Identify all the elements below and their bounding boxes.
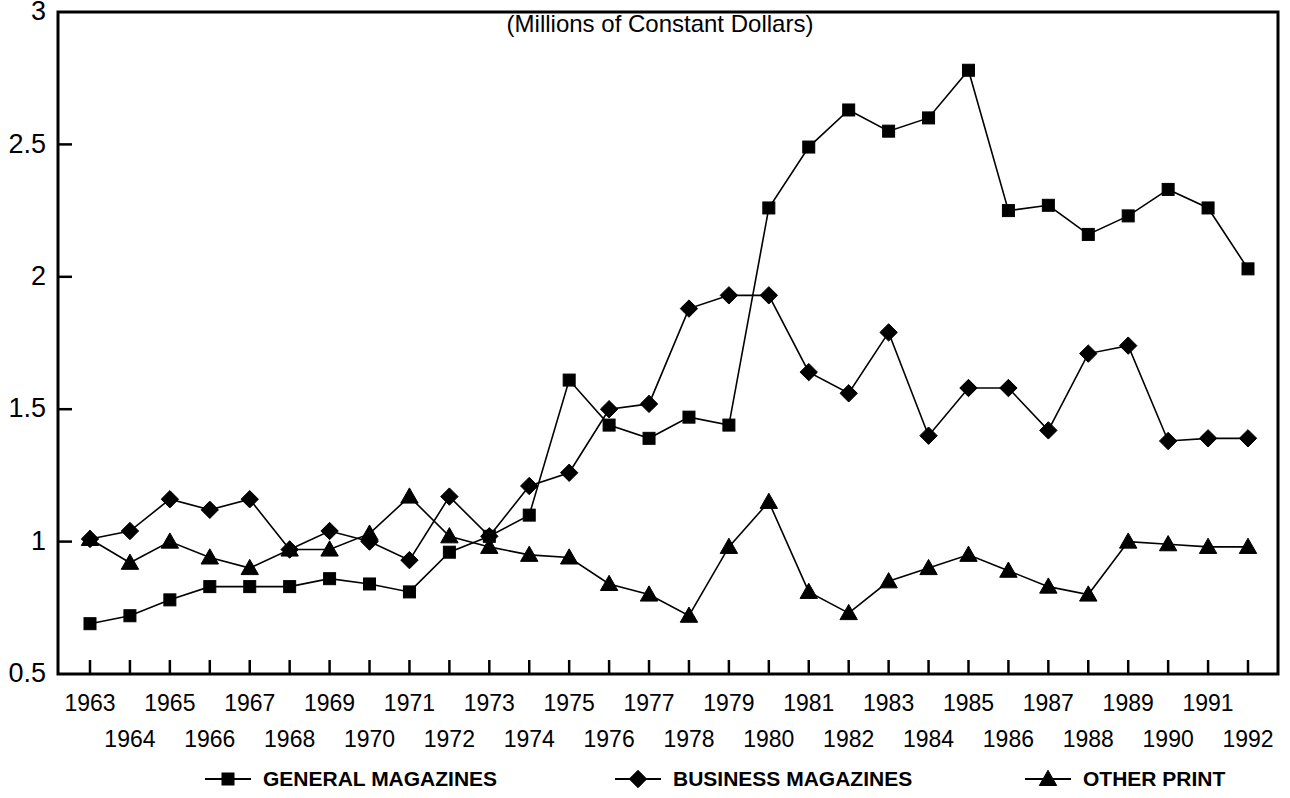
legend-label: OTHER PRINT [1083,767,1226,790]
data-point-square-icon [1162,183,1174,195]
data-point-square-icon [923,112,935,124]
x-axis-year-label: 1972 [424,726,475,752]
x-axis-year-label: 1968 [264,726,315,752]
data-point-square-icon [723,419,735,431]
data-point-square-icon [1202,202,1214,214]
legend-square-icon [222,773,234,785]
data-point-square-icon [763,202,775,214]
x-axis-year-label: 1975 [544,690,595,716]
data-point-square-icon [962,64,974,76]
x-axis-year-label: 1970 [344,726,395,752]
x-axis-year-label: 1963 [64,690,115,716]
y-tick-label: 2 [31,261,46,291]
data-point-square-icon [883,125,895,137]
data-point-square-icon [603,419,615,431]
y-tick-label: 3 [31,0,46,26]
data-point-square-icon [403,586,415,598]
data-point-square-icon [1082,228,1094,240]
x-axis-year-label: 1976 [584,726,635,752]
data-point-square-icon [324,573,336,585]
legend-label: GENERAL MAGAZINES [263,767,497,790]
x-axis-year-label: 1971 [384,690,435,716]
x-axis-year-label: 1991 [1182,690,1233,716]
y-tick-label: 1.5 [8,393,46,423]
x-axis-year-label: 1989 [1103,690,1154,716]
x-axis-year-label: 1990 [1143,726,1194,752]
x-axis-year-label: 1973 [464,690,515,716]
x-axis-year-label: 1981 [783,690,834,716]
x-axis-year-label: 1967 [224,690,275,716]
x-axis-year-label: 1965 [144,690,195,716]
data-point-square-icon [643,432,655,444]
y-tick-label: 1 [31,526,46,556]
data-point-square-icon [563,374,575,386]
data-point-square-icon [204,581,216,593]
data-point-square-icon [364,578,376,590]
data-point-square-icon [1122,210,1134,222]
data-point-square-icon [164,594,176,606]
x-axis-year-label: 1977 [623,690,674,716]
chart-container: (Millions of Constant Dollars) 0.511.522… [0,0,1290,798]
data-point-square-icon [683,411,695,423]
line-chart-figure: (Millions of Constant Dollars) 0.511.522… [0,0,1290,798]
x-axis-year-label: 1982 [823,726,874,752]
x-axis-year-label: 1985 [943,690,994,716]
x-axis-year-label: 1983 [863,690,914,716]
data-point-square-icon [523,509,535,521]
data-point-square-icon [1242,263,1254,275]
x-axis-year-label: 1966 [184,726,235,752]
x-axis-year-label: 1978 [663,726,714,752]
data-point-square-icon [1042,199,1054,211]
data-point-square-icon [843,104,855,116]
data-point-square-icon [803,141,815,153]
x-axis-year-label: 1979 [703,690,754,716]
data-point-square-icon [124,610,136,622]
data-point-square-icon [84,618,96,630]
x-axis-year-label: 1969 [304,690,355,716]
x-axis-year-label: 1974 [504,726,555,752]
x-axis-year-label: 1964 [104,726,155,752]
x-axis-year-label: 1980 [743,726,794,752]
data-point-square-icon [1002,205,1014,217]
data-point-square-icon [244,581,256,593]
x-axis-year-label: 1987 [1023,690,1074,716]
y-tick-label: 2.5 [8,129,46,159]
chart-title: (Millions of Constant Dollars) [507,10,814,37]
x-axis-year-label: 1988 [1063,726,1114,752]
y-tick-label: 0.5 [8,658,46,688]
x-axis-year-label: 1992 [1222,726,1273,752]
x-axis-year-label: 1984 [903,726,954,752]
data-point-square-icon [443,546,455,558]
x-axis-year-label: 1986 [983,726,1034,752]
data-point-square-icon [284,581,296,593]
legend-label: BUSINESS MAGAZINES [673,767,912,790]
